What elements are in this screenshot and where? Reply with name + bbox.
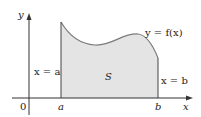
origin-label: 0 (20, 101, 26, 112)
x-axis-arrow-icon (186, 96, 193, 101)
curve-label: y = f(x) (144, 27, 183, 38)
point-a-label: a (58, 101, 64, 112)
x-axis-label: x (183, 101, 189, 112)
area-under-curve-diagram: y x 0 a b x = a x = b y = f(x) S (0, 0, 201, 117)
right-boundary-label: x = b (161, 75, 188, 86)
left-boundary-label: x = a (34, 66, 60, 77)
region-label: S (105, 71, 112, 82)
y-axis-label: y (17, 9, 24, 20)
y-axis-arrow-icon (27, 13, 32, 20)
region-s (61, 22, 158, 98)
point-b-label: b (155, 101, 161, 112)
